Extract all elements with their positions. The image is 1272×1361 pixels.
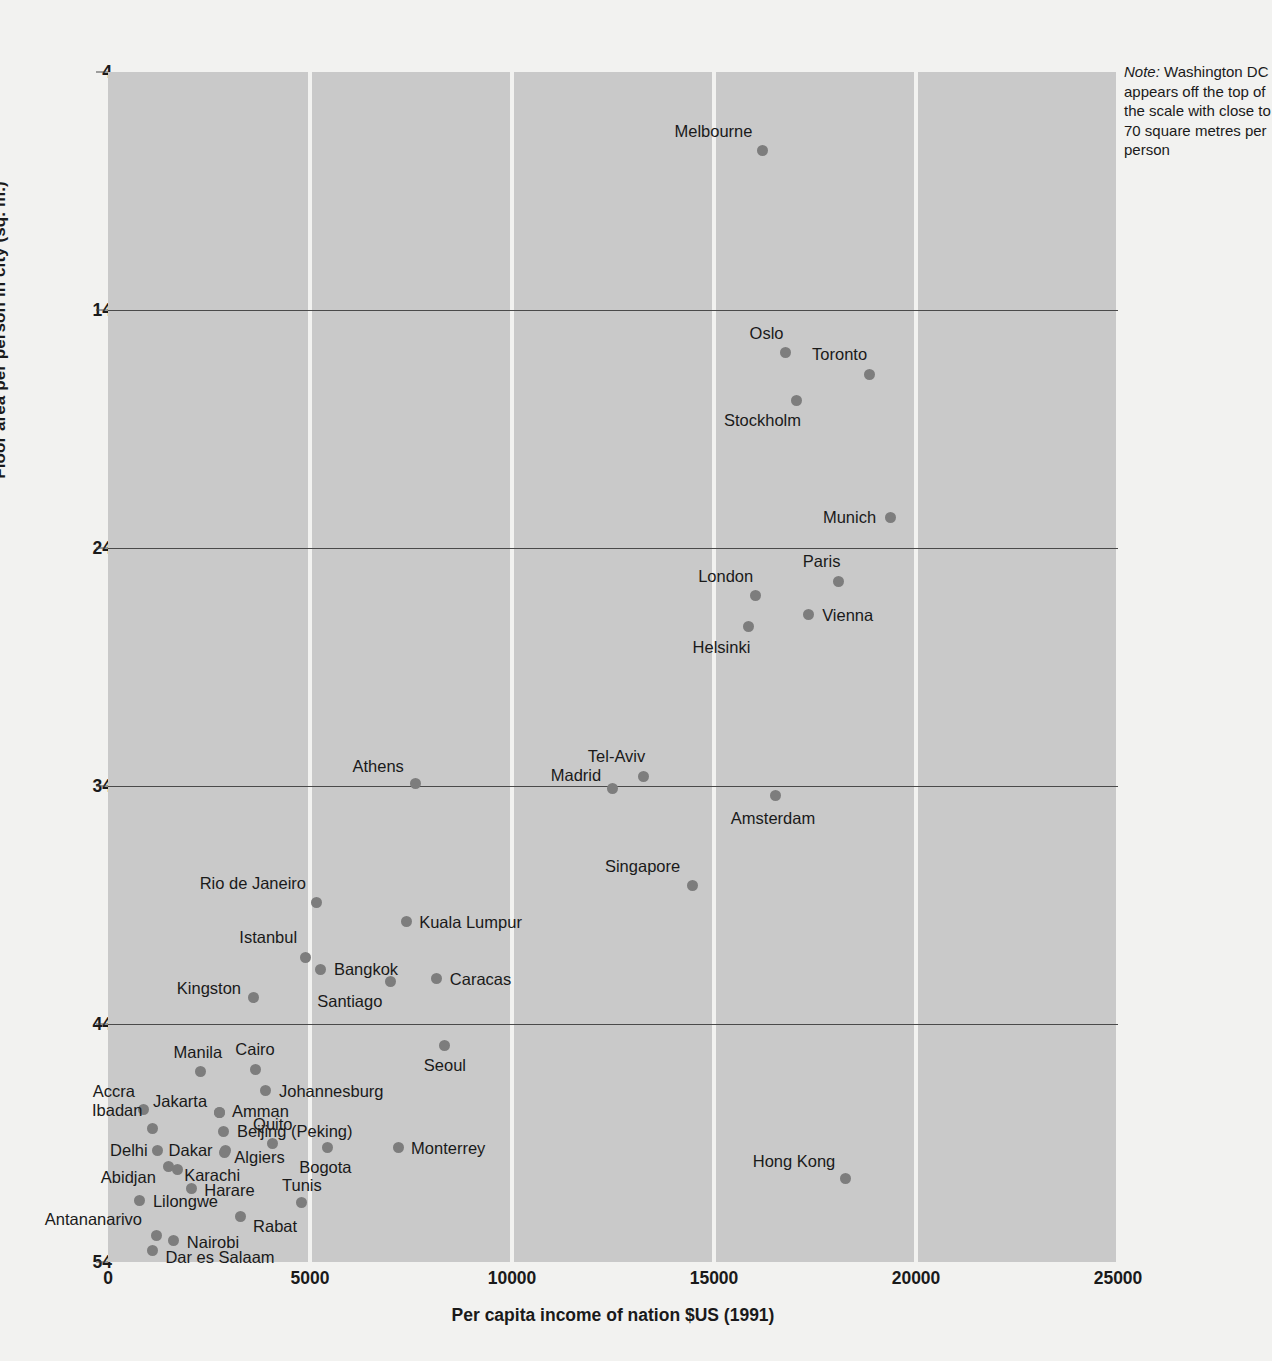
x-tick-label-10000: 10000 — [488, 1268, 537, 1289]
data-point-label: Caracas — [450, 971, 511, 988]
data-point-label: Stockholm — [724, 412, 801, 429]
data-point — [770, 790, 781, 801]
data-point-label: Oslo — [750, 325, 784, 342]
data-point — [885, 512, 896, 523]
data-point — [315, 964, 326, 975]
y-tick-mark-34 — [96, 548, 108, 549]
data-point-label: Quito — [253, 1116, 292, 1133]
data-point — [151, 1230, 162, 1241]
data-point — [638, 771, 649, 782]
data-point-label: Cairo — [235, 1041, 274, 1058]
data-point — [833, 576, 844, 587]
data-point — [296, 1197, 307, 1208]
data-point-label: Paris — [803, 553, 841, 570]
data-point-label: Delhi — [110, 1142, 148, 1159]
data-point — [152, 1145, 163, 1156]
y-tick-mark-4 — [96, 1262, 108, 1263]
data-point-label: Kingston — [177, 980, 241, 997]
data-point — [235, 1211, 246, 1222]
grid-band-x-25000 — [1116, 72, 1120, 1262]
x-tick-label-0: 0 — [103, 1268, 113, 1289]
data-point — [385, 976, 396, 987]
data-point-label: Bangkok — [334, 961, 398, 978]
data-point — [219, 1147, 230, 1158]
data-point — [393, 1142, 404, 1153]
gridline-y-44 — [108, 310, 1118, 311]
data-point-label: Kuala Lumpur — [419, 913, 522, 930]
data-point — [864, 369, 875, 380]
data-point-label: Ibadan — [92, 1101, 142, 1118]
data-point-label: London — [698, 567, 753, 584]
data-point-label: Jakarta — [153, 1093, 207, 1110]
x-tick-label-15000: 15000 — [690, 1268, 739, 1289]
chart-note: Note: Washington DC appears off the top … — [1124, 62, 1272, 160]
data-point-label: Amsterdam — [731, 809, 815, 826]
data-point — [322, 1142, 333, 1153]
data-point-label: Rabat — [253, 1218, 297, 1235]
data-point — [311, 897, 322, 908]
data-point — [687, 880, 698, 891]
data-point-label: Helsinki — [693, 638, 751, 655]
chart-note-lead: Note: — [1124, 63, 1160, 80]
data-point — [195, 1066, 206, 1077]
data-point — [260, 1085, 271, 1096]
data-point-label: Vienna — [822, 606, 873, 623]
data-point-label: Antananarivo — [45, 1211, 142, 1228]
data-point — [780, 347, 791, 358]
plot-area: MelbourneOsloTorontoStockholmMunichParis… — [108, 72, 1118, 1262]
data-point — [803, 609, 814, 620]
data-point-label: Seoul — [424, 1057, 466, 1074]
grid-band-x-20000 — [914, 72, 918, 1262]
data-point-label: Dakar — [169, 1142, 213, 1159]
data-point-label: Athens — [352, 757, 403, 774]
data-point — [147, 1245, 158, 1256]
data-point-label: Santiago — [317, 993, 382, 1010]
data-point-label: Dar es Salaam — [165, 1249, 274, 1266]
data-point-label: Monterrey — [411, 1140, 485, 1157]
data-point-label: Munich — [823, 509, 876, 526]
data-point-label: Rio de Janeiro — [200, 874, 306, 891]
data-point-label: Hong Kong — [753, 1152, 836, 1169]
data-point — [250, 1064, 261, 1075]
grid-band-x-15000 — [712, 72, 716, 1262]
data-point-label: Bogota — [299, 1159, 351, 1176]
data-point — [791, 395, 802, 406]
data-point-label: Algiers — [234, 1148, 284, 1165]
data-point — [172, 1164, 183, 1175]
data-point — [300, 952, 311, 963]
x-tick-label-25000: 25000 — [1094, 1268, 1143, 1289]
data-point — [757, 145, 768, 156]
y-tick-mark-44 — [96, 310, 108, 311]
x-tick-label-20000: 20000 — [892, 1268, 941, 1289]
data-point — [743, 621, 754, 632]
x-tick-label-5000: 5000 — [291, 1268, 330, 1289]
data-point-label: Istanbul — [239, 929, 297, 946]
y-tick-mark-14 — [96, 1024, 108, 1025]
data-point-label: Lilongwe — [153, 1193, 218, 1210]
data-point — [214, 1107, 225, 1118]
data-point-label: Madrid — [551, 767, 601, 784]
data-point — [750, 590, 761, 601]
data-point — [248, 992, 259, 1003]
data-point — [168, 1235, 179, 1246]
data-point — [607, 783, 618, 794]
gridline-y-34 — [108, 548, 1118, 549]
scatter-chart: Floor area per person in city (sq. m.) 5… — [0, 0, 1272, 1361]
data-point-label: Melbourne — [675, 122, 753, 139]
grid-band-x-10000 — [510, 72, 514, 1262]
data-point-label: Tunis — [282, 1176, 322, 1193]
x-axis-title: Per capita income of nation $US (1991) — [108, 1305, 1118, 1326]
data-point — [431, 973, 442, 984]
y-tick-mark-54 — [96, 72, 108, 73]
data-point-label: Johannesburg — [279, 1082, 384, 1099]
data-point — [401, 916, 412, 927]
data-point — [134, 1195, 145, 1206]
data-point — [410, 778, 421, 789]
data-point-label: Toronto — [812, 346, 867, 363]
data-point — [218, 1126, 229, 1137]
data-point-label: Accra — [93, 1082, 135, 1099]
data-point-label: Manila — [174, 1043, 223, 1060]
data-point-label: Singapore — [605, 858, 680, 875]
data-point-label: Tel-Aviv — [588, 748, 645, 765]
y-axis-title: Floor area per person in city (sq. m.) — [0, 160, 10, 500]
